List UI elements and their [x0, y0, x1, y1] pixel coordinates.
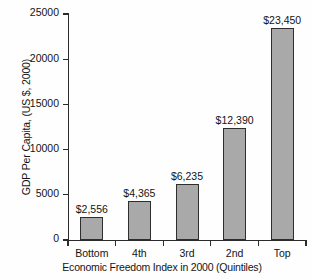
y-axis-tick: 20000 — [63, 59, 69, 60]
y-axis-tick: 15000 — [63, 104, 69, 105]
y-axis-tick-label: 15000 — [30, 97, 59, 109]
bar: $2,556 — [80, 217, 103, 240]
y-axis-tick-label: 0 — [53, 232, 59, 244]
bar: $6,235 — [176, 184, 199, 240]
x-axis-tick — [210, 240, 211, 246]
bar-value-label: $6,235 — [171, 170, 203, 182]
y-axis-tick-label: 10000 — [30, 142, 59, 154]
bar: $4,365 — [128, 201, 151, 240]
x-axis-category-label: 3rd — [179, 247, 194, 259]
x-axis-tick — [305, 240, 306, 246]
x-axis-title: Economic Freedom Index in 2000 (Quintile… — [22, 261, 302, 273]
y-axis-tick: 5000 — [63, 194, 69, 195]
y-axis-tick: 25000 — [63, 13, 69, 14]
bar-chart-figure: GDP Per Capita, (US $, 2000) 05000100001… — [0, 0, 313, 279]
bar-value-label: $4,365 — [123, 187, 155, 199]
y-axis-tick: 10000 — [63, 149, 69, 150]
x-axis-category-label: Top — [274, 247, 291, 259]
y-axis-spine — [68, 14, 69, 240]
x-axis-category-label: Bottom — [75, 247, 108, 259]
plot-area: 0500010000150002000025000 $2,556$4,365$6… — [68, 14, 306, 240]
bar-value-label: $23,450 — [263, 14, 301, 26]
x-axis-spine — [68, 240, 306, 241]
x-axis-category-label: 4th — [132, 247, 147, 259]
x-axis-category-label: 2nd — [226, 247, 244, 259]
x-axis-tick — [163, 240, 164, 246]
x-axis-tick — [67, 240, 68, 246]
x-axis-tick — [115, 240, 116, 246]
y-axis-tick-label: 25000 — [30, 6, 59, 18]
bar-value-label: $12,390 — [216, 114, 254, 126]
y-axis-tick-label: 20000 — [30, 52, 59, 64]
y-axis-tick-label: 5000 — [36, 187, 59, 199]
bar: $12,390 — [223, 128, 246, 240]
x-axis-tick — [258, 240, 259, 246]
bar-value-label: $2,556 — [76, 203, 108, 215]
bar: $23,450 — [271, 28, 294, 240]
